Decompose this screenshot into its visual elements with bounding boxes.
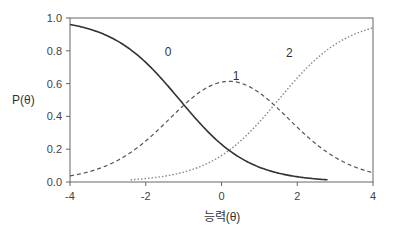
curve-label-0: 0: [165, 45, 172, 59]
y-tick-label: 0.4: [47, 110, 62, 122]
x-tick-label: 4: [370, 190, 376, 202]
plot-frame: [70, 18, 373, 182]
curve-category-1: [70, 81, 373, 176]
y-axis-title: P(θ): [12, 93, 35, 107]
x-tick-label: 2: [294, 190, 300, 202]
axis-ticks: -4-20240.00.20.40.60.81.0: [47, 12, 376, 202]
x-axis-title: 능력(θ): [204, 210, 241, 224]
y-tick-label: 0.2: [47, 143, 62, 155]
x-tick-label: -2: [141, 190, 151, 202]
y-tick-label: 0.6: [47, 78, 62, 90]
curve-label-1: 1: [233, 69, 240, 83]
y-tick-label: 0.8: [47, 45, 62, 57]
curves: [70, 24, 373, 179]
x-tick-label: -4: [65, 190, 75, 202]
curve-label-2: 2: [286, 46, 293, 60]
y-tick-label: 1.0: [47, 12, 62, 24]
x-tick-label: 0: [218, 190, 224, 202]
y-tick-label: 0.0: [47, 176, 62, 188]
irt-category-curves-chart: -4-20240.00.20.40.60.81.0 P(θ) 능력(θ) 0 1…: [0, 0, 396, 238]
